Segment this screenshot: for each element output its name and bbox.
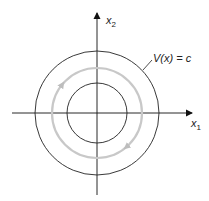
lyapunov-diagram: V(x) = c x2 x1 (0, 0, 209, 201)
level-set-leader-line (143, 60, 152, 70)
x1-axis-label: x1 (190, 117, 202, 132)
x2-axis-label: x2 (105, 14, 117, 29)
level-set-label: V(x) = c (153, 52, 192, 64)
